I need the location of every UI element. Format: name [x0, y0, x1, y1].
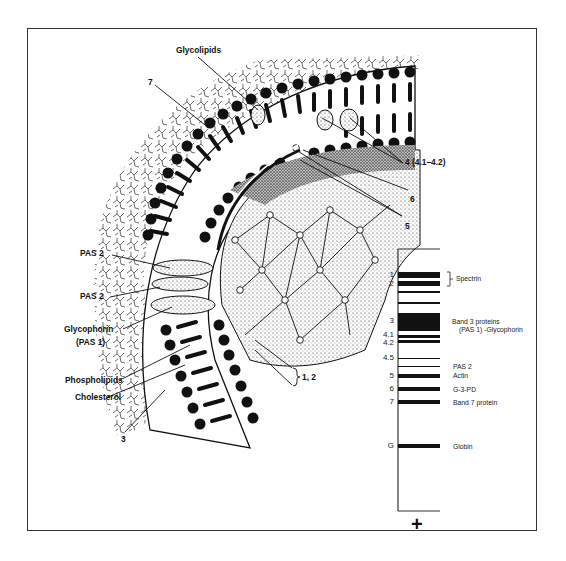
- label-bands-1-2: 1, 2: [302, 373, 316, 381]
- gel-num-g: G: [378, 442, 394, 450]
- label-cholesterol: Cholesterol: [75, 393, 121, 401]
- gel-num-4-2: 4.2: [378, 339, 394, 347]
- gel-label-actin: Actin: [453, 372, 468, 380]
- gel-num-3: 3: [378, 317, 394, 325]
- gel-num-4-5: 4.5: [378, 354, 394, 362]
- gel-label-band7: Band 7 protein: [453, 399, 497, 407]
- gel-num-2: 2: [378, 280, 394, 288]
- gel-label-globin: Globin: [453, 443, 473, 451]
- label-band-5: 5: [405, 222, 410, 230]
- label-phospholipids: Phospholipids: [65, 376, 123, 384]
- anode-plus-icon: +: [411, 514, 423, 534]
- membrane-illustration: [0, 0, 566, 561]
- gel-lane: [398, 249, 453, 511]
- label-band-6: 6: [410, 195, 415, 203]
- gel-num-5: 5: [378, 372, 394, 380]
- label-glycophorin: Glycophorin: [64, 325, 113, 333]
- gel-label-g3pd: G-3-PD: [453, 386, 476, 394]
- gel-label-spectrin: Spectrin: [456, 275, 481, 283]
- gel-label-pas2: PAS 2: [453, 363, 472, 371]
- label-band-7: 7: [148, 78, 153, 86]
- gel-label-band3: Band 3 proteins: [452, 318, 500, 326]
- gel-label-glycophorin: (PAS 1) -Glycophorin: [459, 326, 523, 334]
- gel-num-1: 1: [378, 271, 394, 279]
- label-pas2-upper: PAS 2: [80, 249, 104, 257]
- gel-num-7: 7: [378, 398, 394, 406]
- label-band-3: 3: [121, 435, 126, 443]
- label-glycolipids: Glycolipids: [176, 46, 221, 54]
- label-pas1: (PAS 1): [76, 338, 105, 346]
- label-pas2-lower: PAS 2: [80, 292, 104, 300]
- label-band-4: 4 (4.1–4.2): [405, 158, 446, 166]
- gel-bands: [398, 272, 440, 448]
- gel-num-6: 6: [378, 385, 394, 393]
